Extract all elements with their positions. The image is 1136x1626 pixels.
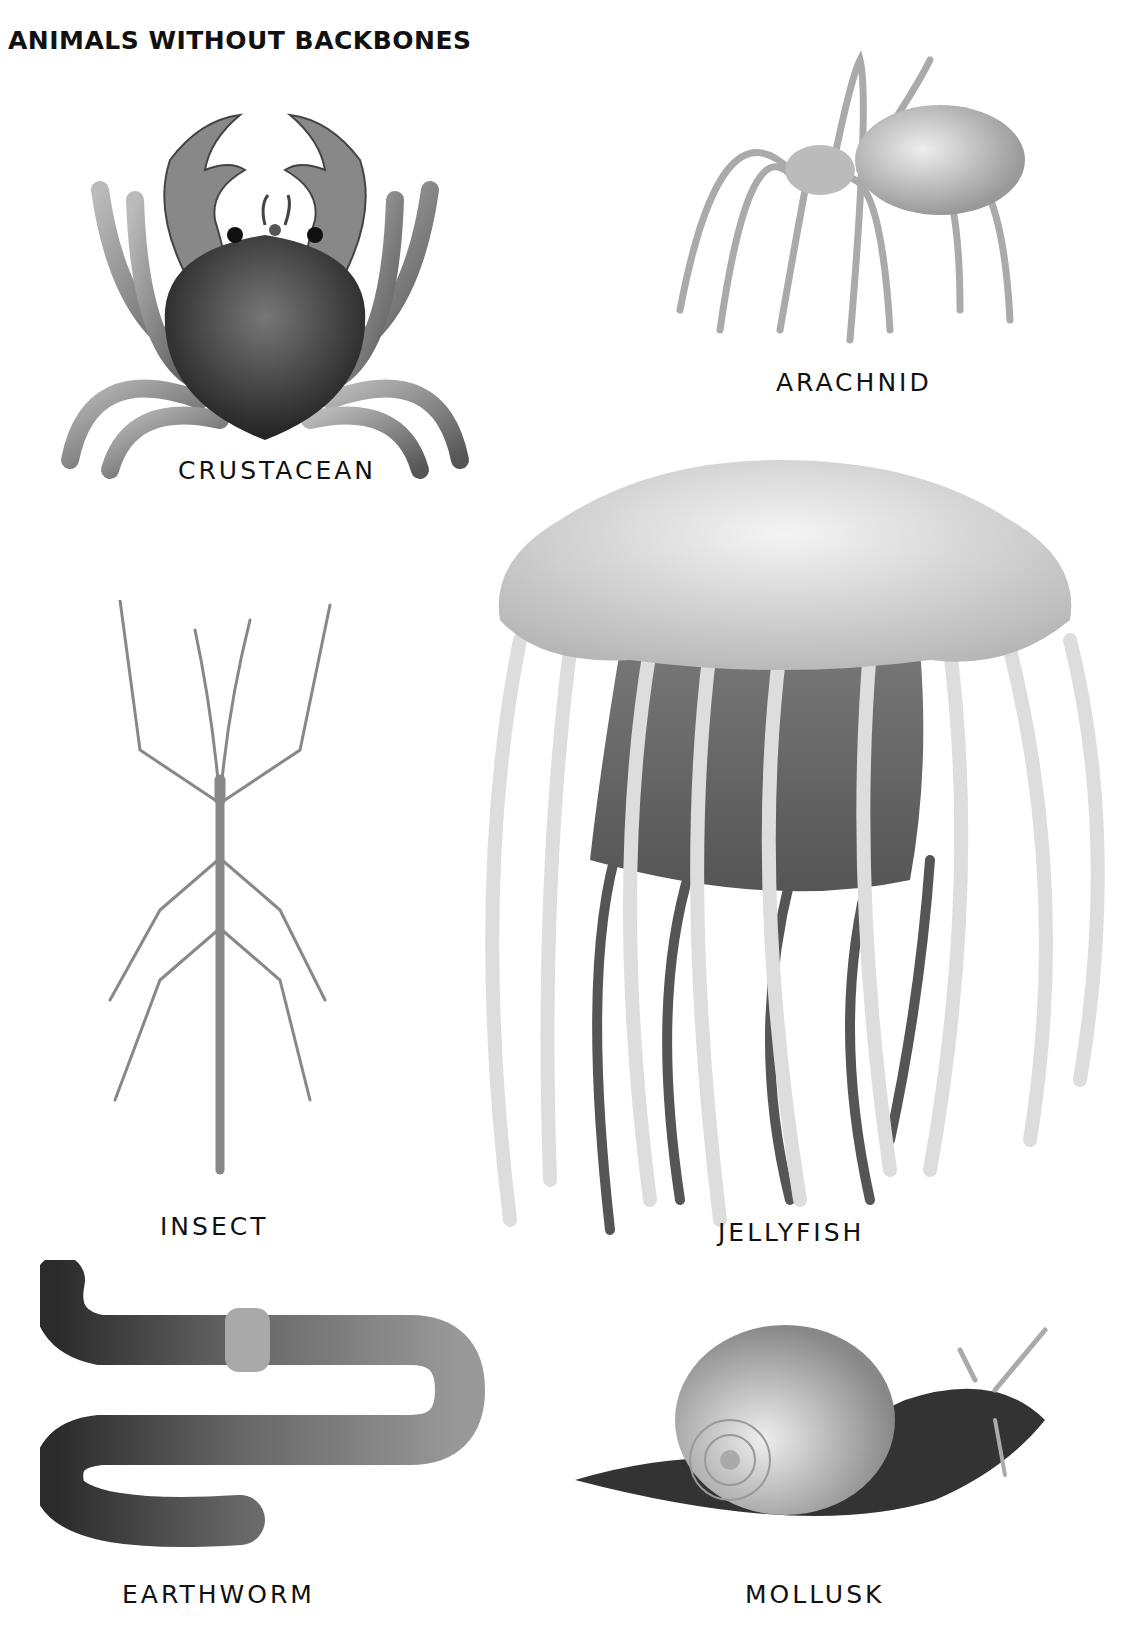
- arachnid-label: ARACHNID: [776, 368, 932, 397]
- mollusk-label: MOLLUSK: [745, 1580, 884, 1609]
- spider-illustration: [660, 40, 1080, 350]
- page-title: ANIMALS WITHOUT BACKBONES: [8, 26, 472, 55]
- crab-illustration: [30, 100, 500, 500]
- jellyfish-label: JELLYFISH: [718, 1218, 864, 1247]
- insect-label: INSECT: [160, 1212, 268, 1241]
- snail-illustration: [575, 1310, 1065, 1560]
- earthworm-label: EARTHWORM: [122, 1580, 315, 1609]
- jellyfish-illustration: [450, 440, 1130, 1240]
- crustacean-label: CRUSTACEAN: [178, 456, 376, 485]
- stick-insect-illustration: [100, 600, 360, 1180]
- earthworm-illustration: [40, 1260, 490, 1560]
